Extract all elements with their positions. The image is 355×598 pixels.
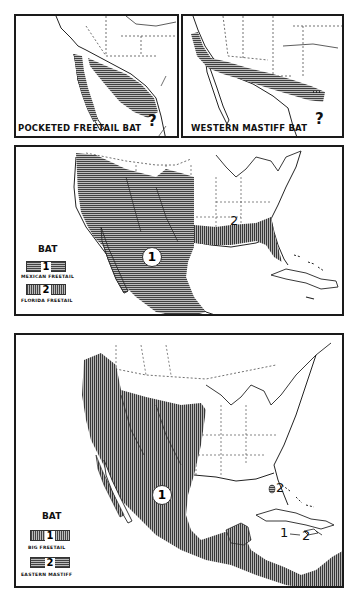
legend-label-florida-freetail: FLORIDA FREETAIL [21,298,73,303]
panel-title-pocketed-freetail: POCKETED FREETAIL BAT [18,123,141,133]
legend-title: BAT [38,244,57,254]
legend-number: 1 [45,531,56,541]
legend-label-eastern-mastiff: EASTERN MASTIFF [21,572,72,577]
range-marker-2-caribbean: 2 [302,528,310,543]
map-panel-big-freetail-eastern-mastiff: 1 2 1 2 BAT 1 BIG FREETAIL 2 EASTERN MAS… [14,333,344,588]
legend-swatch-mexican-freetail: 1 [26,261,66,272]
legend-number: 2 [41,285,52,295]
map-panel-western-mastiff: ? WESTERN MASTIFF BAT [181,14,344,138]
legend-label-mexican-freetail: MEXICAN FREETAIL [21,274,74,279]
range-marker-1: 1 [142,247,162,267]
range-marker-1-caribbean: 1 [280,525,288,540]
legend-number: 2 [45,558,56,568]
range-marker-2: 2 [230,213,238,228]
map-panel-mexican-florida-freetail: 1 2 BAT 1 MEXICAN FREETAIL 2 FLORIDA FRE… [14,145,344,316]
panel-title-western-mastiff: WESTERN MASTIFF BAT [191,123,307,133]
unknown-range-marker: ? [148,112,157,130]
legend-label-big-freetail: BIG FREETAIL [28,545,65,550]
range-marker-1: 1 [152,485,172,505]
unknown-range-marker: ? [315,110,324,128]
north-america-map-bottom [16,335,344,588]
legend-swatch-big-freetail: 1 [30,530,70,541]
legend-title: BAT [42,511,61,521]
range-marker-2-florida: 2 [276,480,284,495]
legend-swatch-florida-freetail: 2 [26,284,66,295]
map-panel-pocketed-freetail: ? POCKETED FREETAIL BAT [14,14,179,138]
legend-number: 1 [41,262,52,272]
legend-swatch-eastern-mastiff: 2 [30,557,70,568]
